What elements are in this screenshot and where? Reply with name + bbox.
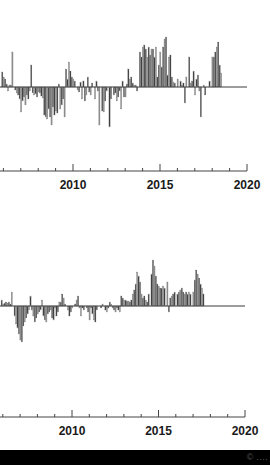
bar [141, 294, 142, 306]
bar [190, 294, 191, 306]
bar [126, 301, 127, 306]
bar [96, 306, 97, 310]
bar [144, 296, 145, 306]
bar [115, 306, 116, 312]
bar [129, 302, 130, 306]
bar [193, 292, 194, 306]
bar [145, 300, 146, 306]
bar [110, 87, 111, 99]
bar [151, 49, 152, 87]
bar [203, 294, 204, 306]
bar [148, 47, 149, 87]
bar [147, 57, 148, 87]
bar [212, 57, 213, 87]
bar [113, 87, 114, 95]
bar [129, 79, 130, 87]
bar [34, 87, 35, 95]
bar [49, 87, 50, 117]
bar [23, 87, 24, 97]
bar [161, 67, 162, 87]
bar [173, 82, 174, 87]
bar [92, 83, 93, 87]
bar [103, 87, 104, 112]
bar [183, 292, 184, 306]
x-tick-label: 2015 [147, 178, 174, 192]
bar [154, 266, 155, 306]
bar [80, 306, 81, 316]
bar [180, 81, 181, 87]
bar [205, 87, 206, 95]
bottom-bar-chart: 201020152020 [0, 232, 270, 442]
bar [155, 276, 156, 306]
bar [194, 87, 195, 95]
bar [12, 52, 13, 87]
bar [50, 306, 51, 310]
bar [132, 294, 133, 306]
bar [80, 82, 81, 87]
bar [28, 306, 29, 310]
bar [84, 87, 85, 101]
bar [89, 306, 90, 320]
bar [113, 306, 114, 310]
bar [187, 294, 188, 306]
bar [63, 298, 64, 306]
bar [61, 87, 62, 105]
footer-bar: © ‥‥ [0, 450, 270, 465]
bar [152, 260, 153, 306]
bar [86, 87, 87, 95]
bar [56, 306, 57, 316]
bar [200, 284, 201, 306]
bar [134, 290, 135, 306]
bar [87, 77, 88, 87]
bar [167, 282, 168, 306]
bar [128, 301, 129, 306]
bar [131, 300, 132, 306]
bar [31, 306, 32, 310]
bar [184, 294, 185, 306]
bar [47, 306, 48, 314]
bar [77, 296, 78, 306]
bar [48, 87, 49, 109]
bar [65, 69, 66, 87]
bar [216, 47, 217, 87]
bar [24, 306, 25, 322]
bar [5, 302, 6, 306]
bar [181, 288, 182, 306]
bar [49, 306, 50, 312]
bar [22, 87, 23, 101]
bar [197, 274, 198, 306]
bar [215, 52, 216, 87]
top-bar-chart: 201020152020 [0, 0, 270, 200]
bar [42, 87, 43, 98]
bottom-bar-chart-plot: 201020152020 [0, 232, 270, 442]
bar [78, 87, 79, 92]
bar [106, 306, 107, 312]
bar [190, 83, 191, 87]
bar [94, 87, 95, 99]
bar [131, 77, 132, 87]
bar [40, 306, 41, 310]
bar [157, 77, 158, 87]
bar [150, 55, 151, 87]
bar [73, 79, 74, 87]
bar [7, 87, 8, 91]
bar [148, 294, 149, 306]
bar [60, 87, 61, 109]
bar [177, 294, 178, 306]
bar [17, 306, 18, 328]
bar [162, 286, 163, 306]
bar [26, 306, 27, 318]
bar [46, 306, 47, 322]
bar [51, 87, 52, 125]
bar [119, 306, 120, 312]
bar [21, 87, 22, 112]
bar [26, 87, 27, 95]
bar [90, 87, 91, 95]
bar [142, 298, 143, 306]
bar [28, 87, 29, 99]
bar [119, 87, 120, 91]
bar [115, 87, 116, 93]
bar [41, 87, 42, 96]
bar [174, 83, 175, 87]
bar [221, 73, 222, 87]
